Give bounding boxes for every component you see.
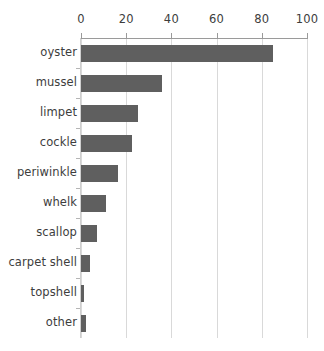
x-tick-mark-0 [81,33,82,39]
category-label-limpet: limpet [40,105,77,119]
y-axis-line [80,38,81,338]
category-label-periwinkle: periwinkle [17,165,77,179]
category-label-other: other [46,315,77,329]
bar-periwinkle [81,165,118,182]
x-tick-mark-20 [126,33,127,39]
bar-chart: 020406080100 oystermussellimpetcockleper… [0,0,324,351]
bar-oyster [81,45,273,62]
x-tick-label-0: 0 [61,12,101,26]
gridline-40 [171,38,172,338]
x-tick-label-60: 60 [197,12,237,26]
x-tick-mark-80 [262,33,263,39]
x-tick-mark-100 [307,33,308,39]
x-tick-mark-40 [171,33,172,39]
bar-limpet [81,105,138,122]
category-label-scallop: scallop [36,225,77,239]
category-label-cockle: cockle [40,135,77,149]
gridline-60 [217,38,218,338]
category-label-whelk: whelk [43,195,77,209]
x-axis-line [81,38,307,39]
x-tick-label-80: 80 [242,12,282,26]
bar-whelk [81,195,106,212]
x-tick-label-20: 20 [106,12,146,26]
bar-scallop [81,225,97,242]
category-label-carpet-shell: carpet shell [8,255,77,269]
bar-mussel [81,75,162,92]
x-tick-label-100: 100 [287,12,324,26]
x-tick-label-40: 40 [151,12,191,26]
bar-carpet-shell [81,255,90,272]
bar-cockle [81,135,132,152]
x-tick-mark-60 [217,33,218,39]
gridline-100 [307,38,308,338]
bar-topshell [81,285,84,302]
category-label-oyster: oyster [40,45,77,59]
gridline-80 [262,38,263,338]
category-label-topshell: topshell [31,285,77,299]
bar-other [81,315,86,332]
category-label-mussel: mussel [36,75,77,89]
